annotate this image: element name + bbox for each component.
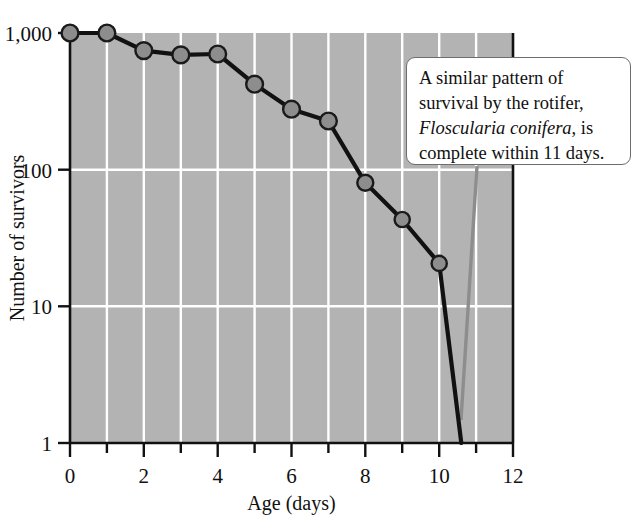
data-point: [357, 175, 373, 191]
survivorship-curve-figure: 1,000 100 10 1 0 2 4 6 8 10 12 Age (days…: [0, 0, 638, 516]
data-point: [209, 46, 226, 63]
callout-line-3: Floscularia conifera, is: [419, 116, 620, 141]
annotation-callout: A similar pattern of survival by the rot…: [406, 57, 631, 165]
x-tick-label-0: 0: [65, 464, 76, 488]
callout-line-2: survival by the rotifer,: [419, 91, 620, 116]
data-point: [246, 76, 263, 93]
x-tick-label-8: 8: [360, 464, 371, 488]
x-tick-label-12: 12: [503, 464, 524, 488]
data-point: [432, 256, 447, 271]
data-point: [99, 25, 116, 42]
data-point: [283, 101, 300, 118]
x-axis-ticks: [70, 443, 513, 457]
callout-line-1: A similar pattern of: [419, 66, 620, 91]
y-tick-label-1: 1: [42, 432, 53, 456]
y-axis-ticks: [58, 33, 70, 443]
y-axis-title: Number of survivors: [6, 154, 28, 321]
x-tick-label-10: 10: [429, 464, 450, 488]
x-axis-title: Age (days): [247, 492, 335, 515]
y-tick-label-1000: 1,000: [5, 22, 52, 46]
y-tick-label-10: 10: [31, 295, 52, 319]
data-point: [135, 42, 152, 59]
callout-line-4: complete within 11 days.: [419, 141, 620, 166]
data-point: [62, 25, 79, 42]
data-point: [172, 47, 189, 64]
x-tick-label-6: 6: [286, 464, 297, 488]
x-tick-label-4: 4: [212, 464, 223, 488]
species-name: Floscularia conifera: [419, 118, 572, 138]
x-tick-label-2: 2: [139, 464, 150, 488]
data-point: [320, 113, 337, 130]
data-point: [395, 212, 410, 227]
callout-line-3-rest: , is: [572, 118, 594, 138]
